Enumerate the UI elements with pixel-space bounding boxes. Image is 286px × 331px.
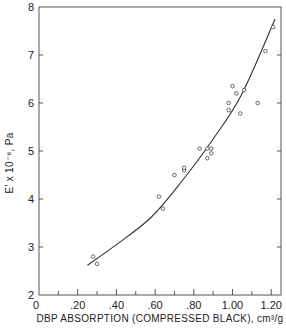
data-point <box>206 156 210 160</box>
chart: 0.20.40.60.801.001.20 2345678 DBP ABSORP… <box>0 0 286 331</box>
data-point <box>264 49 268 53</box>
x-tick-label: .20 <box>70 299 85 311</box>
data-point <box>161 207 165 211</box>
data-point <box>242 88 246 92</box>
x-tick-label: .60 <box>147 299 162 311</box>
data-points <box>91 25 275 265</box>
x-tick-label: 1.20 <box>260 299 281 311</box>
data-point <box>206 147 210 151</box>
y-tick-label: 3 <box>28 241 34 253</box>
x-tick-label: 1.00 <box>222 299 243 311</box>
data-point <box>91 255 95 259</box>
x-axis-label: DBP ABSORPTION (COMPRESSED BLACK), cm³/g <box>37 313 284 324</box>
y-tick-label: 6 <box>28 97 34 109</box>
y-tick-label: 4 <box>28 193 34 205</box>
x-tick-label: .40 <box>109 299 124 311</box>
x-axis-ticks: 0.20.40.60.801.001.20 <box>33 289 282 311</box>
data-point <box>209 147 213 151</box>
y-tick-label: 5 <box>28 145 34 157</box>
y-tick-label: 8 <box>28 1 34 13</box>
fitted-curve <box>87 19 275 265</box>
data-point <box>95 262 99 266</box>
y-tick-label: 7 <box>28 49 34 61</box>
data-point <box>271 25 275 29</box>
data-point <box>227 108 231 112</box>
data-point <box>173 173 177 177</box>
fit-line <box>87 19 275 265</box>
data-point <box>209 152 213 156</box>
x-tick-label: .80 <box>186 299 201 311</box>
data-point <box>238 112 242 116</box>
y-tick-label: 2 <box>28 289 34 301</box>
data-point <box>157 195 161 199</box>
data-point <box>235 92 239 96</box>
data-point <box>198 147 202 151</box>
data-point <box>231 84 235 88</box>
y-axis-label: E' x 10⁻⁶, Pa <box>4 132 15 193</box>
plot-frame <box>39 7 281 295</box>
data-point <box>227 101 231 105</box>
data-point <box>256 101 260 105</box>
data-point <box>182 166 186 170</box>
y-axis-ticks: 2345678 <box>28 1 281 301</box>
